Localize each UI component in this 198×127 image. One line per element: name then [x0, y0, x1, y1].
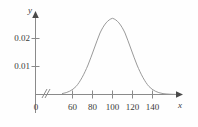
y-axis-label: y	[27, 5, 32, 15]
x-tick-label-60: 60	[68, 102, 78, 112]
x-tick-label-80: 80	[88, 102, 98, 112]
normal-distribution-figure: 60 80 100 120 140 0.01 0.02 0 y x	[0, 0, 198, 127]
y-axis-arrowhead	[32, 11, 39, 18]
plot-canvas: 60 80 100 120 140 0.01 0.02 0 y x	[0, 0, 198, 127]
origin-label: 0	[34, 102, 39, 112]
x-tick-label-100: 100	[106, 102, 120, 112]
x-axis-arrowhead	[176, 91, 183, 98]
x-axis-label: x	[177, 100, 182, 110]
y-tick-label-0.02: 0.02	[14, 33, 30, 43]
x-tick-label-120: 120	[126, 102, 140, 112]
y-tick-label-0.01: 0.01	[14, 61, 30, 71]
normal-curve	[62, 18, 176, 94]
x-tick-label-140: 140	[146, 102, 160, 112]
